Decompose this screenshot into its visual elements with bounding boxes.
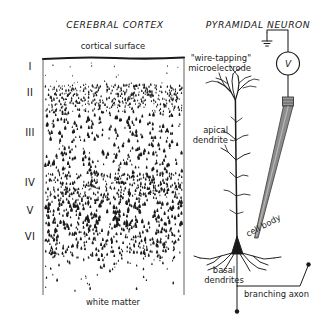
cerebral-cortex-pyramidal-neuron-figure: CEREBRAL CORTEX PYRAMIDAL NEURON cortica… [0,0,327,325]
branching-axon-label: branching axon [244,289,309,299]
layer-numeral-vi: VI [25,231,35,242]
white-matter-label: white matter [86,297,141,307]
apical-dendrite-label-line2: dendrite [193,135,228,145]
electrode-label-line2: microelectrode [188,63,251,73]
electrode-collar [283,97,294,106]
basal-dendrites-label-line1: basal [213,265,235,275]
layer-numeral-iv: IV [25,177,35,188]
basal-dendrites-label-line2: dendrites [204,275,244,285]
electrode-label-line1: "wire-tapping" [191,53,251,63]
layer-numeral-iii: III [25,127,35,138]
layer-numeral-v: V [26,205,33,216]
apical-dendrite-label-line1: apical [203,125,228,135]
right-panel-title: PYRAMIDAL NEURON [206,19,311,30]
cortical-surface-line [43,57,184,59]
voltmeter-label: V [285,59,292,69]
cortical-surface-label: cortical surface [81,41,145,51]
axon-terminal-bouton-1 [235,309,239,313]
layer-numeral-ii: II [27,87,34,98]
left-panel-title: CEREBRAL CORTEX [66,19,164,30]
layer-numeral-i: I [28,61,31,72]
axon-terminal-bouton-2 [306,262,310,266]
